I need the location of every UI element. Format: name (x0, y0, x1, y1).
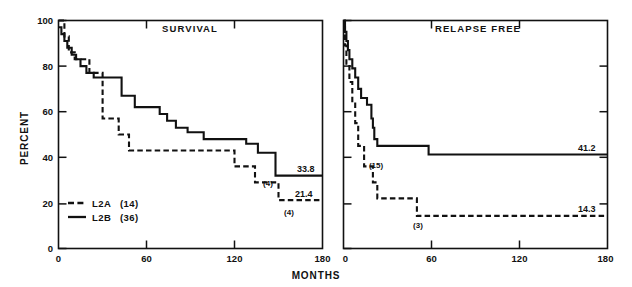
censor-label-l2a-relapse-free: (3) (413, 221, 423, 230)
figure-kaplan-meier: 0 20 40 60 80 100 0 60 120 180 SURVIVAL (0, 0, 632, 287)
xtick-label-180-rf: 180 (598, 253, 614, 264)
xtick-label-60: 60 (141, 253, 152, 264)
censor-label-l2b-relapse-free: (15) (369, 161, 384, 170)
xtick-label-0-rf: 0 (343, 253, 348, 264)
ytick-label-0: 0 (48, 243, 53, 254)
endpoint-label-l2b-survival: 33.8 (297, 164, 315, 174)
xtick-label-0: 0 (56, 253, 61, 264)
xtick-label-60-rf: 60 (426, 253, 437, 264)
panel-relapse-free-xticks (432, 21, 520, 249)
legend-label-l2b: L2B (92, 212, 111, 223)
xtick-label-120-rf: 120 (512, 253, 528, 264)
ytick-label-60: 60 (42, 106, 53, 117)
curve-l2b-relapse-free (344, 21, 608, 155)
legend: L2A (14) L2B (36) (68, 198, 139, 223)
legend-count-l2b: (36) (120, 212, 139, 223)
endpoint-label-l2a-relapse-free: 14.3 (578, 204, 596, 214)
legend-label-l2a: L2A (92, 198, 111, 209)
panel-survival: 0 20 40 60 80 100 0 60 120 180 SURVIVAL (37, 15, 330, 264)
endpoint-label-l2b-relapse-free: 41.2 (578, 143, 596, 153)
ytick-label-20: 20 (42, 198, 53, 209)
chart-canvas: 0 20 40 60 80 100 0 60 120 180 SURVIVAL (0, 0, 632, 287)
legend-count-l2a: (14) (120, 198, 139, 209)
panel-title-relapse-free: RELAPSE FREE (435, 23, 521, 34)
ytick-label-80: 80 (42, 61, 53, 72)
censor-label-l2a-survival: (4) (284, 208, 294, 217)
x-axis-title: MONTHS (292, 270, 341, 281)
curve-l2a-relapse-free (344, 27, 608, 216)
xtick-label-180: 180 (315, 253, 331, 264)
panel-relapse-free: 0 60 120 180 RELAPSE FREE (15) (3) 41.2 … (343, 21, 614, 265)
ytick-label-40: 40 (42, 152, 53, 163)
panel-survival-xticks (147, 21, 235, 249)
panel-relapse-free-frame (344, 21, 608, 249)
y-axis-title: PERCENT (19, 111, 30, 165)
panel-title-survival: SURVIVAL (162, 23, 218, 34)
ytick-label-100: 100 (37, 15, 53, 26)
censor-label-l2b-survival: (4) (263, 179, 273, 188)
endpoint-label-l2a-survival: 21.4 (295, 189, 313, 199)
xtick-label-120: 120 (227, 253, 243, 264)
panel-survival-yticks (59, 21, 67, 249)
curve-l2a-survival (59, 21, 323, 201)
curve-l2b-survival (59, 27, 323, 175)
panel-relapse-free-yticks (344, 21, 608, 249)
